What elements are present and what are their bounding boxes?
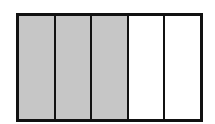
shaded-part [19, 16, 56, 119]
diagram-canvas: ) [0, 0, 215, 124]
unshaded-part [165, 16, 200, 119]
shaded-part [56, 16, 93, 119]
fraction-bar [16, 13, 203, 122]
shaded-part [92, 16, 129, 119]
unshaded-part [129, 16, 166, 119]
